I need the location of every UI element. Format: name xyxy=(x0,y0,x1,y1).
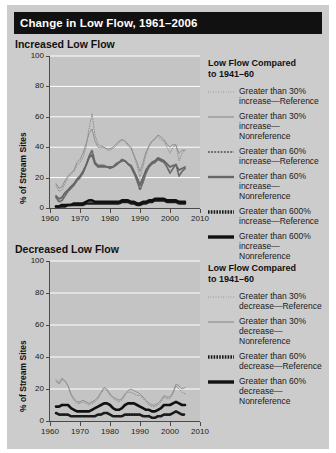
legend-label-line2: increase—Reference xyxy=(239,156,319,166)
y-tick-label: 0 xyxy=(18,204,44,212)
y-axis-title-bot: % of Stream Sites xyxy=(18,340,28,412)
y-tick-mark xyxy=(46,86,50,87)
y-tick-mark xyxy=(46,178,50,179)
x-tick-label: 1980 xyxy=(95,214,125,223)
chart-subtitle-increased: Increased Low Flow xyxy=(15,38,115,50)
legend-swatch xyxy=(208,111,234,122)
legend-label-line1: Greater than 600% xyxy=(239,206,311,216)
y-tick-label: 100 xyxy=(18,52,44,60)
x-tick-mark xyxy=(110,209,111,213)
legend-swatch xyxy=(208,376,234,387)
legend-item[interactable]: Greater than 60%increase—Reference xyxy=(208,146,330,166)
y-tick-mark xyxy=(46,56,50,57)
chart-increased-low-flow: % of Stream Sites 0204060801001960197019… xyxy=(14,52,204,230)
legend-label-line1: Greater than 60% xyxy=(239,376,306,386)
legend-item[interactable]: Greater than 30%decrease—Nonreference xyxy=(208,316,330,346)
y-tick-label: 40 xyxy=(18,143,44,151)
legend-label-line2: increase—Nonreference xyxy=(239,121,291,141)
y-axis-line-bot xyxy=(49,261,50,422)
legend-label-line2: increase—Nonreference xyxy=(239,181,291,201)
y-tick-mark xyxy=(46,117,50,118)
figure-root: Change in Low Flow, 1961–2006 Increased … xyxy=(0,0,336,453)
data-series-line xyxy=(56,129,185,188)
plot-svg-bot xyxy=(50,261,200,421)
x-tick-mark xyxy=(80,422,81,426)
legend-label: Greater than 60%decrease—Nonreference xyxy=(239,376,330,406)
legend-item[interactable]: Greater than 30%increase—Nonreference xyxy=(208,111,330,141)
y-tick-label: 80 xyxy=(18,289,44,297)
x-tick-label: 1960 xyxy=(35,427,65,436)
legend-label-line2: decrease—Reference xyxy=(239,301,322,311)
y-tick-label: 20 xyxy=(18,174,44,182)
legend-title-line1: Low Flow Compared xyxy=(208,58,296,68)
y-tick-label: 60 xyxy=(18,113,44,121)
legend-swatch xyxy=(208,231,234,242)
legend-increased: Low Flow Compared to 1941–60 Greater tha… xyxy=(208,58,330,266)
x-tick-label: 2000 xyxy=(155,214,185,223)
legend-label-line1: Greater than 30% xyxy=(239,111,306,121)
x-tick-label: 1970 xyxy=(65,427,95,436)
legend-label: Greater than 600%increase—Nonreference xyxy=(239,231,330,261)
y-tick-label: 100 xyxy=(18,257,44,265)
legend-swatch xyxy=(208,146,234,157)
legend-swatch xyxy=(208,86,234,97)
legend-label: Greater than 60%increase—Nonreference xyxy=(239,171,330,201)
legend-label-line1: Greater than 30% xyxy=(239,316,306,326)
legend-swatch xyxy=(208,171,234,182)
legend-label: Greater than 30%increase—Reference xyxy=(239,86,319,106)
y-tick-mark xyxy=(46,325,50,326)
data-series-line xyxy=(56,114,185,192)
legend-label: Greater than 60%decrease—Reference xyxy=(239,351,322,371)
x-tick-label: 1990 xyxy=(125,427,155,436)
x-tick-mark xyxy=(80,209,81,213)
x-tick-mark xyxy=(110,422,111,426)
y-tick-mark xyxy=(46,389,50,390)
legend-item[interactable]: Greater than 30%decrease—Reference xyxy=(208,291,330,311)
x-tick-mark xyxy=(140,422,141,426)
y-tick-label: 80 xyxy=(18,82,44,90)
legend-label-line2: decrease—Nonreference xyxy=(239,326,291,346)
legend-swatch xyxy=(208,291,234,302)
legend-item[interactable]: Greater than 60%increase—Nonreference xyxy=(208,171,330,201)
legend-item[interactable]: Greater than 600%increase—Reference xyxy=(208,206,330,226)
figure-title: Change in Low Flow, 1961–2006 xyxy=(14,17,198,29)
chart-subtitle-decreased: Decreased Low Flow xyxy=(15,243,119,255)
legend-item[interactable]: Greater than 60%decrease—Nonreference xyxy=(208,376,330,406)
legend-decreased: Low Flow Compared to 1941–60 Greater tha… xyxy=(208,263,330,411)
x-tick-mark xyxy=(50,209,51,213)
data-series-line xyxy=(56,411,185,417)
plot-area-top xyxy=(50,56,200,208)
legend-title-top: Low Flow Compared to 1941–60 xyxy=(208,58,330,80)
x-tick-mark xyxy=(200,209,201,213)
legend-label-line2: increase—Nonreference xyxy=(239,241,291,261)
y-tick-mark xyxy=(46,357,50,358)
x-tick-mark xyxy=(170,422,171,426)
plot-area-bot xyxy=(50,261,200,421)
legend-label-line1: Greater than 30% xyxy=(239,291,306,301)
legend-label-line1: Greater than 60% xyxy=(239,351,306,361)
y-tick-label: 40 xyxy=(18,353,44,361)
data-series-line xyxy=(56,150,185,202)
legend-label: Greater than 30%decrease—Nonreference xyxy=(239,316,330,346)
legend-item[interactable]: Greater than 60%decrease—Reference xyxy=(208,351,330,371)
legend-label: Greater than 30%decrease—Reference xyxy=(239,291,322,311)
legend-label-line2: increase—Reference xyxy=(239,216,319,226)
legend-label: Greater than 60%increase—Reference xyxy=(239,146,319,166)
y-tick-label: 20 xyxy=(18,385,44,393)
legend-item[interactable]: Greater than 600%increase—Nonreference xyxy=(208,231,330,261)
legend-title-bot: Low Flow Compared to 1941–60 xyxy=(208,263,330,285)
x-tick-label: 1960 xyxy=(35,214,65,223)
data-series-line xyxy=(56,378,185,407)
x-tick-mark xyxy=(140,209,141,213)
y-tick-label: 0 xyxy=(18,417,44,425)
x-tick-mark xyxy=(200,422,201,426)
y-tick-mark xyxy=(46,147,50,148)
x-tick-label: 1970 xyxy=(65,214,95,223)
plot-svg-top xyxy=(50,56,200,208)
legend-item[interactable]: Greater than 30%increase—Reference xyxy=(208,86,330,106)
legend-label-line2: increase—Reference xyxy=(239,96,319,106)
x-axis-line-bot xyxy=(49,421,200,422)
y-tick-label: 60 xyxy=(18,321,44,329)
legend-swatch xyxy=(208,351,234,362)
x-tick-label: 1980 xyxy=(95,427,125,436)
